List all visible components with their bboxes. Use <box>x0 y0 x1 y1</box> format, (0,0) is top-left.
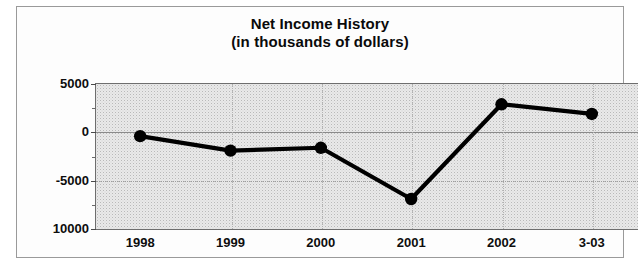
series-line-chart: 1998: -5001999: -20002000: -17002001: -7… <box>95 83 637 228</box>
y-axis-label: -5000 <box>56 172 89 187</box>
chart-title-block: Net Income History (in thousands of doll… <box>17 15 623 52</box>
y-axis-label: 10000 <box>53 221 89 236</box>
y-axis-tick <box>91 229 96 230</box>
chart-frame: Net Income History (in thousands of doll… <box>16 6 624 258</box>
chart-title: Net Income History <box>17 15 623 33</box>
y-axis-labels: 50000-500010000 <box>17 83 89 228</box>
data-point-marker: 2002: 2800 <box>495 98 507 110</box>
data-point-marker: 1999: -2000 <box>224 144 236 156</box>
chart-subtitle: (in thousands of dollars) <box>17 33 623 51</box>
y-axis-label: 5000 <box>60 76 89 91</box>
data-point-marker: 2000: -1700 <box>315 142 327 154</box>
x-axis-label: 1999 <box>216 235 245 250</box>
data-point-marker: 2001: -7000 <box>405 193 417 205</box>
data-point-marker: 1998: -500 <box>134 130 146 142</box>
x-axis-label: 2001 <box>397 235 426 250</box>
y-axis-label: 0 <box>82 124 89 139</box>
data-point-marker: 3-03: 1800 <box>586 108 598 120</box>
x-axis-label: 2000 <box>306 235 335 250</box>
x-axis-label: 2002 <box>487 235 516 250</box>
x-axis-labels: 199819992000200120023-03 <box>95 235 637 257</box>
series-line <box>140 104 592 199</box>
x-axis-label: 3-03 <box>579 235 605 250</box>
x-axis-label: 1998 <box>126 235 155 250</box>
